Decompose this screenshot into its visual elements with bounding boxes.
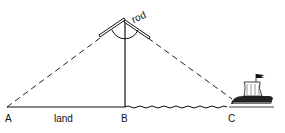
point-b-label: B [121,113,128,124]
diagram-canvas: rod A land B C [0,0,285,133]
point-c-label: C [228,113,235,124]
land-label: land [54,113,73,124]
triangulation-diagram: rod A land B C [0,0,285,133]
point-a-label: A [5,113,12,124]
ship-icon [229,74,274,107]
rod-label: rod [130,9,148,25]
water-line [125,106,227,108]
sight-line-a [7,38,100,107]
sight-line-c [148,38,232,99]
